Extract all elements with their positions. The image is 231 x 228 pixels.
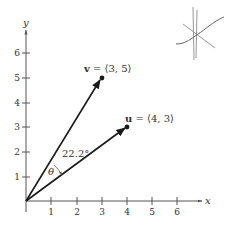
svg-text:2: 2	[74, 207, 80, 217]
svg-text:3: 3	[99, 207, 105, 217]
svg-text:1: 1	[14, 172, 20, 182]
svg-text:4: 4	[14, 98, 20, 108]
vector-v: v = ⟨3, 5⟩	[26, 63, 132, 201]
svg-text:6: 6	[174, 207, 180, 217]
svg-text:6: 6	[14, 48, 20, 58]
svg-text:5: 5	[149, 207, 155, 217]
angle-value-label: 22.2°	[62, 148, 89, 159]
vector-v-endpoint	[100, 76, 105, 81]
svg-text:1: 1	[48, 207, 54, 217]
svg-text:3: 3	[14, 122, 20, 132]
angle-marker: θ 22.2°	[48, 148, 89, 177]
vector-u-label: u = ⟨4, 3⟩	[125, 113, 174, 124]
angle-arc	[54, 165, 62, 175]
y-axis-label: y	[22, 17, 29, 28]
vector-v-label: v = ⟨3, 5⟩	[83, 63, 132, 74]
x-tick-labels: 1 2 3 4 5 6	[48, 207, 180, 217]
vector-angle-diagram: x y 1 2 3 4 5 6 1 2 3 4 5 6	[0, 0, 231, 228]
vector-u-endpoint	[125, 125, 130, 130]
svg-text:5: 5	[14, 73, 20, 83]
svg-text:2: 2	[14, 147, 20, 157]
svg-text:4: 4	[124, 207, 130, 217]
y-tick-labels: 1 2 3 4 5 6	[14, 48, 20, 182]
sketch-graph-icon	[176, 7, 224, 60]
vector-u: u = ⟨4, 3⟩	[26, 113, 174, 201]
x-axis-label: x	[205, 195, 211, 206]
theta-label: θ	[48, 166, 54, 177]
